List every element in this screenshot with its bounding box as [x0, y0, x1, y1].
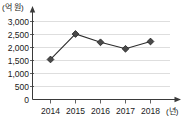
y-tick-label: 3,000	[8, 17, 30, 27]
x-axis-unit-label: (년)	[166, 106, 179, 116]
y-tick-label: 2,000	[8, 43, 30, 53]
y-axis-arrow-icon	[30, 6, 35, 13]
series-line	[51, 34, 151, 59]
x-tick-marks	[51, 100, 151, 104]
y-axis-tick-labels: 3,000 2,500 2,000 1,500 1,000 500 0	[8, 17, 30, 105]
gridlines	[32, 22, 170, 87]
y-tick-label: 0	[24, 95, 29, 105]
y-tick-label: 1,000	[8, 69, 30, 79]
data-point-marker	[147, 38, 154, 45]
x-tick-label: 2014	[41, 106, 60, 116]
y-tick-label: 1,500	[8, 56, 30, 66]
x-tick-label: 2018	[141, 106, 160, 116]
x-axis-tick-labels: 2014 2015 2016 2017 2018	[41, 106, 160, 116]
y-tick-label: 500	[15, 82, 29, 92]
line-chart: (억 원) 3,000 2,500 2,000 1,500 1,000 500 …	[0, 0, 188, 127]
x-tick-label: 2016	[91, 106, 110, 116]
x-tick-label: 2017	[116, 106, 135, 116]
data-series	[47, 31, 154, 63]
y-tick-label: 2,500	[8, 30, 30, 40]
chart-figure: (억 원) 3,000 2,500 2,000 1,500 1,000 500 …	[0, 0, 188, 127]
x-axis-arrow-icon	[175, 97, 182, 102]
data-point-marker	[97, 39, 104, 46]
y-axis-unit-label: (억 원)	[2, 2, 24, 12]
data-point-marker	[122, 45, 129, 52]
x-tick-label: 2015	[66, 106, 85, 116]
